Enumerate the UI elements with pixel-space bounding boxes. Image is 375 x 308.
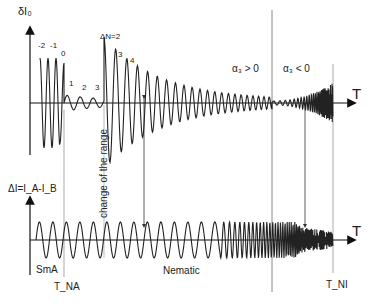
top-x-label: T — [352, 86, 361, 101]
bottom-y-label: ΔI=I_A-I_B — [8, 184, 57, 194]
bottom-x-label: T — [352, 223, 361, 238]
alpha3-positive-label: α₃ > 0 — [232, 64, 259, 74]
range-change-annotation: change of the range — [98, 129, 109, 218]
order-label: 0 — [61, 50, 65, 58]
tni-label: T_NI — [326, 280, 348, 290]
order-label: 3 — [95, 84, 99, 92]
sma-phase-label: SmA — [36, 265, 58, 275]
order-label: -2 — [38, 42, 45, 50]
order-label: 4 — [130, 57, 134, 65]
order-label: 1 — [69, 80, 73, 88]
order-label: 2 — [82, 84, 86, 92]
top-y-label: δI₀ — [18, 6, 32, 17]
order-label: 3 — [118, 51, 122, 59]
order-label: -1 — [50, 42, 57, 50]
nematic-phase-label: Nematic — [163, 266, 200, 276]
alpha3-negative-label: α₃ < 0 — [283, 64, 310, 74]
top-oscillation-curve — [40, 37, 333, 162]
order-label-delta-n: ΔN=2 — [100, 33, 120, 41]
tna-label: T_NA — [54, 282, 80, 292]
